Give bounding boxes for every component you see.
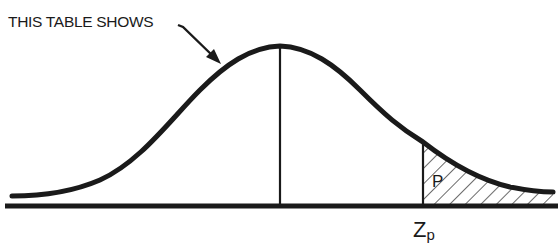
shaded-tail-region	[423, 130, 558, 210]
critical-value-main: Z	[413, 217, 426, 242]
normal-curve-diagram	[0, 0, 560, 249]
shaded-area-label: P	[432, 172, 443, 192]
callout-arrow-icon	[178, 25, 221, 64]
critical-value-subscript: p	[426, 226, 434, 243]
callout-label: THIS TABLE SHOWS	[8, 13, 153, 31]
critical-value-label: Zp	[413, 217, 435, 243]
bell-curve	[12, 46, 553, 196]
